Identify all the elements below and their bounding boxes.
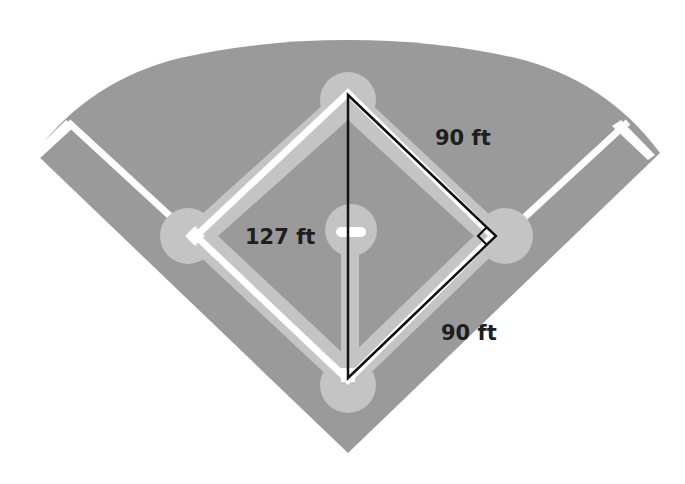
label-hypotenuse: 127 ft bbox=[245, 225, 315, 249]
pitcher-rubber bbox=[336, 227, 366, 237]
baseball-diamond-diagram: 90 ft 127 ft 90 ft bbox=[0, 0, 685, 484]
label-side-bottom: 90 ft bbox=[441, 321, 497, 345]
mound-to-home-path bbox=[341, 240, 359, 360]
label-side-top: 90 ft bbox=[435, 126, 491, 150]
